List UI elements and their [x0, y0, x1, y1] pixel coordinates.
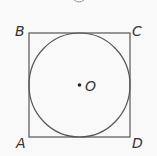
- vertex-label-c: C: [132, 23, 142, 39]
- center-point-o: [78, 83, 82, 87]
- center-label-o: O: [85, 78, 96, 94]
- vertex-label-d: D: [132, 135, 143, 151]
- cropped-glyph: [74, 0, 84, 2]
- vertex-label-a: A: [15, 135, 26, 151]
- inscribed-circle-diagram: B C A D O: [0, 0, 157, 156]
- vertex-label-b: B: [15, 23, 25, 39]
